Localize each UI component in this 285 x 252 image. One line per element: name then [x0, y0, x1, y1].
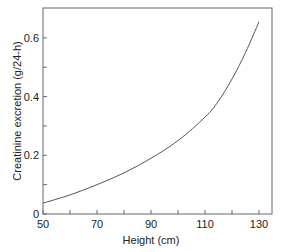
x-tick-labels: 507090110130 — [37, 218, 268, 230]
x-axis-title: Height (cm) — [123, 234, 180, 246]
x-tick-label: 130 — [250, 218, 268, 230]
y-axis-title: Creatinine excretion (g/24-h) — [11, 41, 23, 180]
axis-ticks — [43, 38, 259, 214]
line-chart: 507090110130 00.20.40.6 Height (cm) Crea… — [0, 0, 285, 252]
y-tick-labels: 00.20.40.6 — [24, 32, 39, 220]
y-tick-label: 0.6 — [24, 32, 39, 44]
y-tick-label: 0.2 — [24, 149, 39, 161]
x-tick-label: 90 — [145, 218, 157, 230]
y-tick-label: 0.4 — [24, 91, 39, 103]
x-tick-label: 110 — [196, 218, 214, 230]
plot-frame — [43, 8, 272, 214]
plot-border — [43, 8, 272, 214]
data-line — [43, 22, 259, 203]
y-tick-label: 0 — [33, 208, 39, 220]
x-tick-label: 70 — [91, 218, 103, 230]
